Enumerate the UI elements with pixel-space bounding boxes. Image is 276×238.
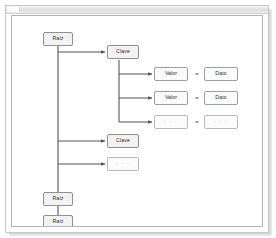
equals-sign-3: = xyxy=(195,119,199,125)
node-value-2[interactable]: Valor xyxy=(154,91,188,105)
diagram-canvas: Raíz Clave Valor = Dato Valor = Dato · ·… xyxy=(11,15,263,227)
node-value-more[interactable]: · · · xyxy=(154,115,188,129)
window-shadow-bottom xyxy=(9,233,271,236)
node-key-1[interactable]: Clave xyxy=(107,45,139,59)
node-data-2[interactable]: Dato xyxy=(204,91,238,105)
node-data-more[interactable]: · · · xyxy=(204,115,238,129)
equals-sign-1: = xyxy=(195,71,199,77)
equals-sign-2: = xyxy=(195,95,199,101)
node-root-top[interactable]: Raíz xyxy=(43,32,73,46)
node-key-more[interactable]: · · · xyxy=(107,157,139,171)
window-title-strip-nub xyxy=(7,7,20,12)
node-root-2[interactable]: Raíz xyxy=(43,192,73,206)
node-key-2[interactable]: Clave xyxy=(107,134,139,148)
window-shadow-right xyxy=(269,9,272,235)
node-data-1[interactable]: Dato xyxy=(204,67,238,81)
node-root-3[interactable]: Raíz xyxy=(43,215,73,227)
node-value-1[interactable]: Valor xyxy=(154,67,188,81)
window-title-strip xyxy=(6,6,268,14)
screenshot-root: Raíz Clave Valor = Dato Valor = Dato · ·… xyxy=(0,0,276,238)
